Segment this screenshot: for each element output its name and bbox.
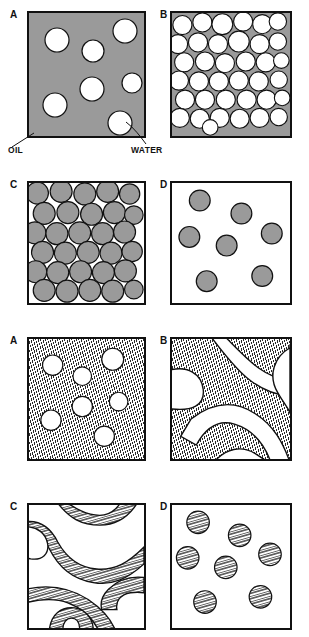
droplet bbox=[216, 90, 235, 109]
droplet bbox=[73, 367, 92, 386]
droplet bbox=[196, 271, 217, 292]
droplet bbox=[237, 90, 256, 109]
droplet bbox=[215, 54, 234, 73]
droplet bbox=[103, 202, 125, 224]
droplet bbox=[102, 280, 124, 302]
panel-letter-upper-a: A bbox=[10, 10, 17, 20]
droplet bbox=[252, 266, 273, 287]
droplet bbox=[79, 279, 101, 301]
panel-box-upper-c bbox=[27, 181, 146, 305]
droplet bbox=[29, 222, 46, 244]
droplet bbox=[29, 183, 48, 204]
droplet bbox=[259, 543, 282, 566]
droplet bbox=[109, 392, 128, 411]
droplet bbox=[216, 235, 237, 256]
panel-box-upper-d bbox=[170, 181, 292, 305]
droplets-upper-c bbox=[29, 183, 144, 303]
droplet bbox=[208, 35, 227, 54]
droplets-lower-d bbox=[172, 505, 290, 628]
droplet bbox=[194, 591, 217, 614]
droplet bbox=[114, 260, 136, 282]
droplet bbox=[81, 203, 103, 225]
panel-box-upper-a bbox=[27, 11, 146, 138]
droplet bbox=[215, 556, 238, 579]
droplet bbox=[195, 90, 214, 109]
droplet bbox=[193, 13, 212, 32]
droplet bbox=[33, 279, 55, 301]
panel-letter-lower-b: B bbox=[160, 336, 167, 346]
droplet bbox=[94, 426, 114, 446]
droplets-lower-a bbox=[29, 339, 144, 459]
droplet bbox=[202, 120, 218, 136]
droplet bbox=[108, 111, 132, 135]
droplet bbox=[172, 108, 189, 127]
droplet bbox=[229, 71, 248, 90]
droplet bbox=[172, 71, 188, 90]
droplet bbox=[80, 77, 104, 101]
droplet bbox=[33, 202, 55, 224]
droplet bbox=[72, 396, 92, 416]
droplet bbox=[249, 72, 268, 91]
droplet bbox=[43, 355, 63, 375]
droplet bbox=[269, 33, 286, 50]
droplet bbox=[189, 72, 208, 91]
panel-box-lower-b bbox=[170, 337, 292, 461]
droplet bbox=[102, 348, 124, 370]
droplets-upper-b bbox=[172, 13, 290, 136]
droplet bbox=[77, 241, 99, 263]
droplet bbox=[228, 524, 251, 547]
droplets-upper-d bbox=[172, 183, 290, 303]
droplet bbox=[212, 14, 233, 35]
panel-box-lower-a bbox=[27, 337, 146, 461]
droplet bbox=[256, 53, 275, 72]
droplet bbox=[187, 511, 210, 534]
droplet bbox=[57, 202, 79, 224]
bicontinuous-lower-c bbox=[29, 505, 144, 628]
panel-box-lower-d bbox=[170, 503, 292, 630]
droplet bbox=[46, 223, 68, 245]
panel-box-lower-c bbox=[27, 503, 146, 630]
droplet bbox=[114, 221, 136, 243]
droplet bbox=[54, 242, 76, 264]
droplet bbox=[195, 52, 214, 71]
droplet bbox=[69, 222, 91, 244]
oil-label: OIL bbox=[8, 146, 23, 155]
droplet bbox=[82, 40, 104, 62]
droplet bbox=[236, 52, 255, 71]
droplet bbox=[74, 183, 96, 205]
droplet bbox=[122, 73, 142, 93]
droplet bbox=[97, 183, 119, 202]
droplet bbox=[230, 109, 249, 128]
panel-letter-lower-a: A bbox=[10, 336, 17, 346]
droplet bbox=[41, 410, 61, 430]
droplet bbox=[172, 35, 188, 54]
droplet bbox=[50, 183, 72, 202]
droplet bbox=[228, 31, 249, 52]
figure-root: A B OIL WATER C D bbox=[0, 0, 309, 637]
droplet bbox=[43, 93, 67, 117]
droplet bbox=[175, 90, 194, 109]
droplet bbox=[56, 280, 78, 302]
droplet bbox=[249, 586, 272, 609]
droplet bbox=[234, 13, 253, 31]
droplet bbox=[231, 203, 252, 224]
droplet bbox=[261, 223, 282, 244]
droplet bbox=[250, 35, 269, 54]
droplet bbox=[100, 242, 122, 264]
droplet bbox=[253, 15, 272, 34]
droplet bbox=[189, 190, 210, 211]
panel-letter-lower-d: D bbox=[160, 502, 167, 512]
droplet bbox=[176, 547, 199, 570]
droplet bbox=[173, 16, 192, 35]
droplet bbox=[119, 184, 139, 204]
droplet bbox=[257, 90, 276, 109]
droplet bbox=[113, 19, 137, 43]
panel-box-upper-b bbox=[170, 11, 292, 138]
droplet bbox=[175, 53, 194, 72]
droplet bbox=[92, 223, 114, 245]
droplet bbox=[188, 33, 207, 52]
panel-letter-upper-c: C bbox=[10, 180, 17, 190]
bicontinuous-lower-b bbox=[172, 339, 290, 459]
droplet bbox=[274, 90, 290, 106]
droplet bbox=[270, 108, 287, 125]
